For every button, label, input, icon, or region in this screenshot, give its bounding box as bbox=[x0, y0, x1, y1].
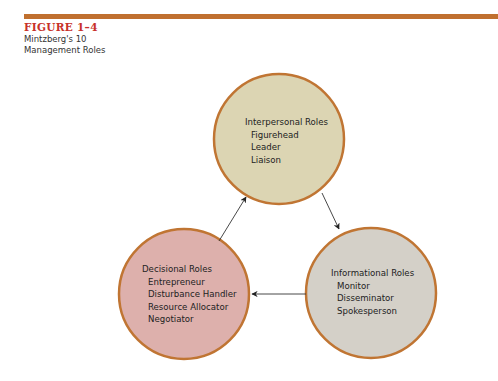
interpersonal-title: Interpersonal Roles bbox=[245, 116, 328, 129]
decisional-item: Entrepreneur bbox=[142, 276, 237, 289]
decisional-item: Resource Allocator bbox=[142, 301, 237, 314]
decisional-title: Decisional Roles bbox=[142, 263, 237, 276]
informational-item: Monitor bbox=[331, 280, 414, 293]
arrow-decisional-to-interpersonal bbox=[219, 197, 246, 241]
decisional-item: Negotiator bbox=[142, 313, 237, 326]
interpersonal-item: Liaison bbox=[245, 154, 328, 167]
decisional-item: Disturbance Handler bbox=[142, 288, 237, 301]
informational-item: Spokesperson bbox=[331, 305, 414, 318]
interpersonal-roles: Interpersonal Roles Figurehead Leader Li… bbox=[245, 116, 328, 166]
roles-diagram bbox=[0, 0, 498, 381]
informational-roles: Informational Roles Monitor Disseminator… bbox=[331, 267, 414, 317]
interpersonal-item: Figurehead bbox=[245, 129, 328, 142]
arrow-interpersonal-to-informational bbox=[322, 193, 339, 229]
decisional-roles: Decisional Roles Entrepreneur Disturbanc… bbox=[142, 263, 237, 326]
informational-item: Disseminator bbox=[331, 292, 414, 305]
informational-title: Informational Roles bbox=[331, 267, 414, 280]
interpersonal-item: Leader bbox=[245, 141, 328, 154]
